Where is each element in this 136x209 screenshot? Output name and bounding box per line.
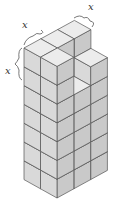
brace-marks — [0, 0, 136, 209]
brace-top-left — [24, 30, 43, 45]
brace-top-right — [74, 16, 94, 27]
brace-left-vertical — [15, 48, 22, 80]
cube-stack-figure: x x x — [0, 0, 136, 209]
